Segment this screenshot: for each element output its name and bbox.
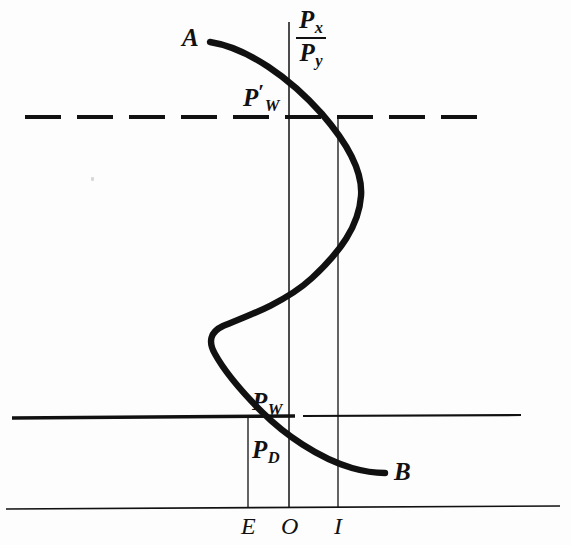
pd-label: PD (252, 437, 280, 466)
scan-artifact-speck (91, 177, 94, 181)
offer-curve-AB (210, 42, 385, 473)
pw-prime-base: P (243, 84, 258, 111)
baseline-axis (6, 506, 560, 509)
tick-label-o: O (281, 514, 298, 538)
tick-label-i: I (334, 514, 342, 538)
price-ratio-numerator: Px (296, 7, 326, 37)
pw-subscript: W (267, 400, 282, 419)
pw-label: PW (252, 389, 282, 418)
offer-curve-figure: A Px Py P′W PW PD E O I B (0, 0, 571, 545)
figure-canvas (0, 0, 571, 545)
curve-start-label-a: A (182, 25, 199, 50)
price-ratio-label: Px Py (296, 7, 326, 70)
tick-label-e: E (241, 514, 256, 538)
price-ratio-numerator-subscript: x (314, 18, 323, 37)
price-ratio-denominator: Py (296, 37, 326, 69)
pd-subscript: D (267, 448, 279, 467)
pw-line-right (303, 415, 521, 416)
pw-prime-label: P′W (243, 82, 279, 114)
pw-prime-subscript: W (264, 96, 279, 115)
pw-base: P (252, 388, 267, 415)
price-ratio-denominator-subscript: y (315, 51, 323, 70)
curve-end-label-b: B (394, 459, 411, 484)
pd-base: P (252, 436, 267, 463)
